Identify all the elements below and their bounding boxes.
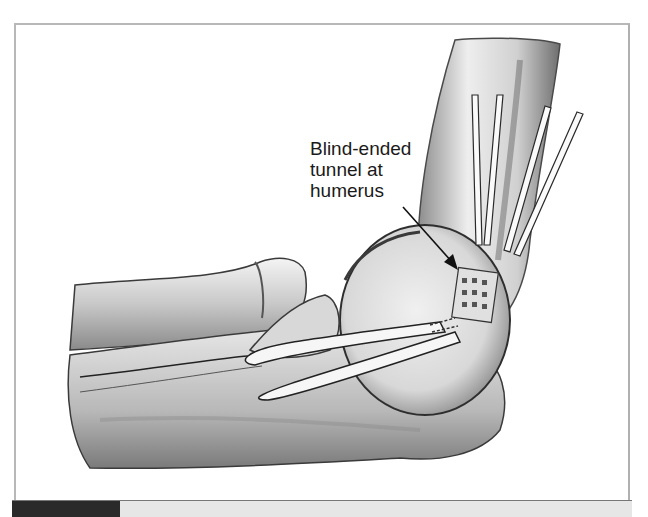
elbow-illustration <box>0 0 648 500</box>
caption-bar <box>12 500 632 517</box>
annotation-label: Blind-ended tunnel at humerus <box>310 138 411 201</box>
caption-tab <box>12 501 120 517</box>
